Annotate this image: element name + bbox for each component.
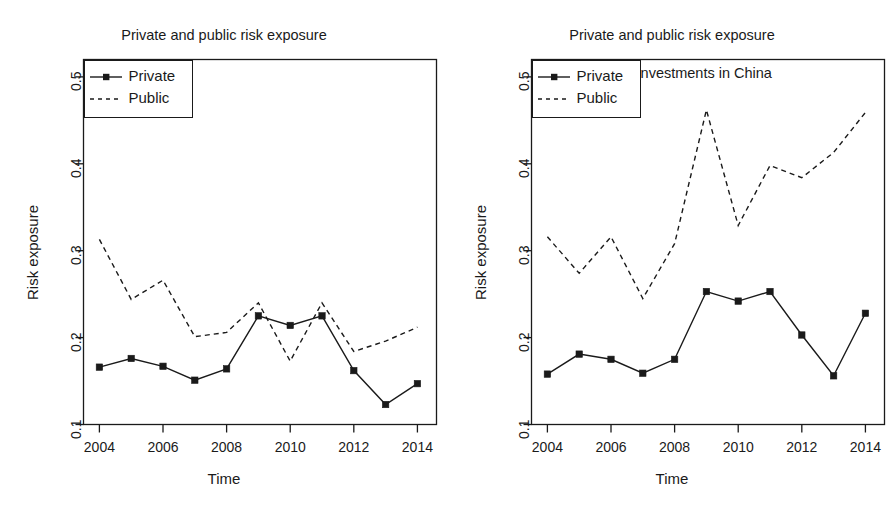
data-point-marker — [767, 288, 773, 294]
data-point-marker — [703, 288, 709, 294]
y-tick-label: 0.1 — [68, 419, 84, 438]
y-tick-label: 0.3 — [68, 245, 84, 264]
data-point-marker — [128, 355, 134, 361]
data-point-marker — [640, 370, 646, 376]
data-point-marker — [608, 356, 614, 362]
x-axis-label-left: Time — [0, 470, 448, 487]
series-line-private — [99, 316, 417, 405]
data-point-marker — [830, 373, 836, 379]
data-point-marker — [862, 310, 868, 316]
x-tick-label: 2014 — [843, 439, 887, 455]
series-line-public — [547, 110, 865, 299]
x-tick-label: 2008 — [653, 439, 697, 455]
x-tick-label: 2010 — [268, 439, 312, 455]
data-point-marker — [544, 371, 550, 377]
x-tick-label: 2006 — [141, 439, 185, 455]
x-axis-label-right: Time — [448, 470, 896, 487]
x-tick-label: 2006 — [589, 439, 633, 455]
y-tick-label: 0.2 — [68, 332, 84, 351]
x-tick-label: 2004 — [525, 439, 569, 455]
x-tick-label: 2010 — [716, 439, 760, 455]
y-tick-label: 0.3 — [516, 245, 532, 264]
data-point-marker — [576, 351, 582, 357]
legend-swatches — [532, 60, 641, 118]
x-tick-label: 2008 — [205, 439, 249, 455]
chart-panel-right: Private and public risk exposure excludi… — [448, 0, 896, 514]
data-point-marker — [255, 313, 261, 319]
y-tick-label: 0.5 — [68, 71, 84, 90]
data-point-marker — [223, 366, 229, 372]
data-point-marker — [414, 380, 420, 386]
y-axis-label-right: Risk exposure — [472, 205, 489, 300]
data-point-marker — [799, 332, 805, 338]
data-point-marker — [735, 298, 741, 304]
data-point-marker — [192, 377, 198, 383]
figure-root: Private and public risk exposure Risk ex… — [0, 0, 896, 514]
series-line-public — [99, 239, 417, 361]
legend-marker-private — [103, 73, 109, 79]
data-point-marker — [382, 401, 388, 407]
y-tick-label: 0.2 — [516, 332, 532, 351]
y-tick-label: 0.4 — [68, 158, 84, 177]
data-point-marker — [96, 364, 102, 370]
x-tick-label: 2014 — [395, 439, 439, 455]
data-point-marker — [319, 313, 325, 319]
x-tick-label: 2012 — [780, 439, 824, 455]
data-point-marker — [287, 322, 293, 328]
legend-swatches — [84, 60, 193, 118]
x-tick-label: 2004 — [77, 439, 121, 455]
y-tick-label: 0.5 — [516, 71, 532, 90]
y-tick-label: 0.4 — [516, 158, 532, 177]
x-tick-label: 2012 — [332, 439, 376, 455]
data-point-marker — [351, 367, 357, 373]
chart-panel-left: Private and public risk exposure Risk ex… — [0, 0, 448, 514]
data-point-marker — [671, 356, 677, 362]
series-line-private — [547, 292, 865, 376]
data-point-marker — [160, 363, 166, 369]
y-tick-label: 0.1 — [516, 419, 532, 438]
y-axis-label-left: Risk exposure — [24, 205, 41, 300]
legend-marker-private — [551, 73, 557, 79]
